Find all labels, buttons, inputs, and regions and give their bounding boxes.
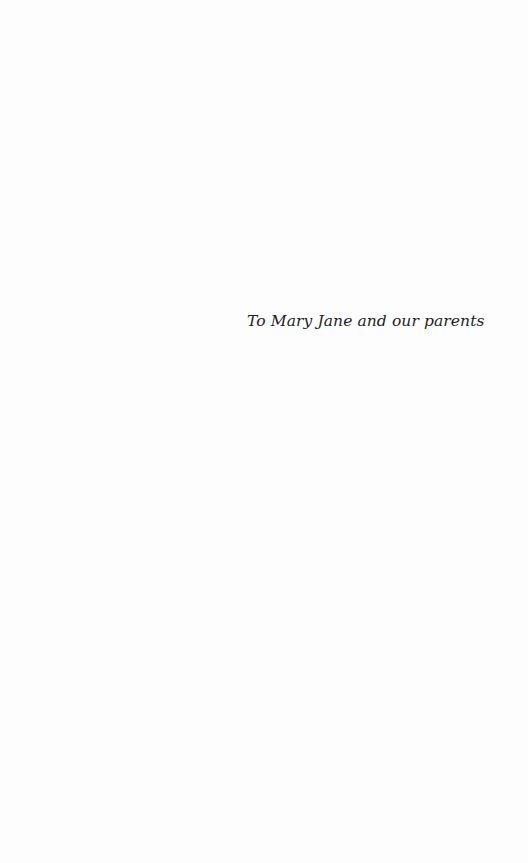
book-page: To Mary Jane and our parents: [0, 0, 528, 863]
dedication-text: To Mary Jane and our parents: [247, 310, 467, 332]
